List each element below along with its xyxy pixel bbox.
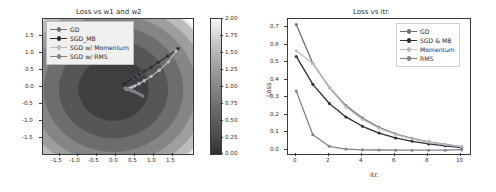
legend-item-gd[interactable]: GD (50, 25, 129, 34)
loss-xtick-2: 4 (359, 157, 363, 163)
colorbar-tick-8: 0.00 (225, 150, 237, 156)
legend-label-sgd-mb-2: SGD & MB (420, 36, 451, 45)
legend-item-rms-2[interactable]: RMS (400, 54, 455, 63)
colorbar-tick-3: 1.25 (225, 66, 237, 72)
contour-legend[interactable]: GD SGD_MB SGD w/ Momentum SGD w/ RMS (46, 21, 134, 65)
matplotlib-figure: Loss vs w1 and w2 (0, 0, 496, 192)
contour-xtick-0: -1.5 (51, 157, 62, 163)
legend-marker-gd-icon-2 (400, 27, 417, 36)
loss-ytick-5: 0.5 (270, 58, 279, 64)
legend-marker-momentum-icon-2 (400, 45, 417, 54)
legend-item-sgd-mb[interactable]: SGD_MB (50, 34, 129, 43)
loss-xtick-1: 2 (326, 157, 330, 163)
contour-ytick-0: 1.5 (25, 32, 34, 38)
legend-marker-rms-icon-2 (400, 54, 417, 63)
colorbar-tick-5: 0.75 (225, 100, 237, 106)
loss-xtick-0: 0 (293, 157, 297, 163)
loss-ytick-6: 0.6 (270, 41, 279, 47)
legend-item-momentum[interactable]: SGD w/ Momentum (50, 43, 129, 52)
loss-ytick-2: 0.2 (270, 111, 279, 117)
contour-chart-title: Loss vs w1 and w2 (76, 8, 142, 16)
legend-marker-sgd-mb-icon (50, 34, 67, 43)
contour-xtick-5: 1.0 (147, 157, 156, 163)
contour-xtick-3: 0.0 (109, 157, 118, 163)
contour-xtick-4: 0.5 (128, 157, 137, 163)
loss-ytick-0: 0.0 (270, 146, 279, 152)
contour-ytick-4: -0.5 (22, 100, 33, 106)
legend-label-momentum-2: Momentum (420, 45, 455, 54)
loss-xtick-4: 8 (425, 157, 429, 163)
contour-xtick-2: -0.5 (88, 157, 99, 163)
legend-marker-sgd-mb-icon-2 (400, 36, 417, 45)
loss-ytick-1: 0.1 (270, 128, 279, 134)
loss-chart-title: Loss vs itr. (353, 8, 390, 16)
colorbar-tick-0: 2.00 (225, 15, 237, 21)
colorbar-tick-6: 0.50 (225, 117, 237, 123)
legend-item-momentum-2[interactable]: Momentum (400, 45, 455, 54)
colorbar-tick-4: 1.00 (225, 83, 237, 89)
contour-ytick-2: 0.5 (25, 66, 34, 72)
legend-marker-rms-icon (50, 52, 67, 61)
contour-xtick-1: -1.0 (69, 157, 80, 163)
legend-item-gd-2[interactable]: GD (400, 27, 455, 36)
loss-legend[interactable]: GD SGD & MB Momentum RMS (396, 23, 460, 67)
loss-ytick-7: 0.7 (270, 23, 279, 29)
loss-xaxis-label: itr. (370, 171, 379, 179)
contour-ytick-6: -1.5 (22, 134, 33, 140)
colorbar-tick-2: 1.50 (225, 49, 237, 55)
colorbar-tick-7: 0.25 (225, 134, 237, 140)
legend-label-sgd-mb: SGD_MB (70, 34, 96, 43)
legend-marker-momentum-icon (50, 43, 67, 52)
contour-ytick-5: -1.0 (22, 117, 33, 123)
colorbar-tick-1: 1.75 (225, 32, 237, 38)
legend-label-rms-2: RMS (420, 54, 433, 63)
legend-item-rms[interactable]: SGD w/ RMS (50, 52, 129, 61)
loss-xtick-5: 10 (456, 157, 463, 163)
legend-marker-gd-icon (50, 25, 67, 34)
contour-xtick-6: 1.5 (166, 157, 175, 163)
legend-label-rms: SGD w/ RMS (70, 52, 108, 61)
contour-ytick-3: 0.0 (25, 83, 34, 89)
loss-ytick-4: 0.4 (270, 76, 279, 82)
contour-ytick-1: 1.0 (25, 49, 34, 55)
legend-item-sgd-mb-2[interactable]: SGD & MB (400, 36, 455, 45)
legend-label-gd-2: GD (420, 27, 429, 36)
loss-xtick-3: 6 (392, 157, 396, 163)
legend-label-gd: GD (70, 25, 79, 34)
loss-yaxis-label: Loss (265, 83, 273, 97)
legend-label-momentum: SGD w/ Momentum (70, 43, 129, 52)
